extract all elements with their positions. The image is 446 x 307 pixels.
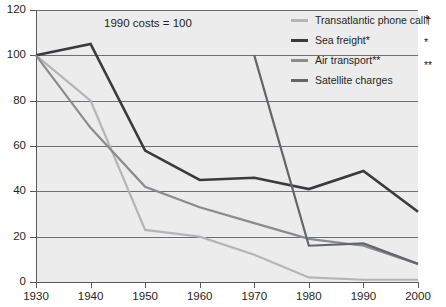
legend-item-1[interactable]: Sea freight* (291, 30, 423, 50)
legend-swatch-icon (291, 79, 308, 82)
cost-of-transport-line-chart: 020406080100120 193019401950196019701980… (0, 0, 446, 307)
plot-title: 1990 costs = 100 (104, 17, 192, 29)
legend-swatch-icon (291, 59, 308, 62)
legend-item-2[interactable]: Air transport** (291, 50, 423, 70)
footnote-mark-2: ** (424, 56, 446, 79)
footnote-markers: †*** (424, 10, 446, 79)
chart-legend: Transatlantic phone call†Sea freight*Air… (291, 10, 423, 90)
footnote-mark-1: * (424, 33, 446, 56)
legend-item-label: Air transport** (315, 55, 380, 66)
legend-item-label: Transatlantic phone call† (315, 15, 431, 26)
legend-item-label: Sea freight* (315, 35, 370, 46)
footnote-mark-0: † (424, 10, 446, 33)
legend-swatch-icon (291, 19, 308, 22)
legend-swatch-icon (291, 39, 308, 42)
legend-item-0[interactable]: Transatlantic phone call† (291, 10, 423, 30)
legend-item-label: Satellite charges (315, 75, 393, 86)
legend-item-3[interactable]: Satellite charges (291, 70, 423, 90)
